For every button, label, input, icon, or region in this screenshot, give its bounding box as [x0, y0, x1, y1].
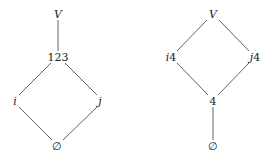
node-V-left: V: [53, 9, 63, 20]
edge-i-empty: [19, 107, 52, 140]
edge-j-empty: [63, 107, 97, 140]
diagram-edges: [0, 0, 276, 157]
edge-123-i: [19, 63, 51, 95]
right-lattice-edges: [177, 20, 249, 140]
edge-i4-4: [177, 63, 208, 95]
edge-123-j: [65, 63, 97, 95]
node-empty-left: ∅: [51, 141, 63, 152]
node-i: i: [12, 96, 18, 107]
node-V-right: V: [208, 9, 218, 20]
node-123: 123: [47, 52, 70, 63]
node-j4-suffix: 4: [253, 51, 260, 64]
node-empty-right: ∅: [207, 141, 219, 152]
node-i4-suffix: 4: [169, 51, 176, 64]
left-lattice-edges: [19, 20, 97, 140]
node-j: j: [97, 96, 102, 107]
node-i4: i4: [165, 52, 178, 63]
edge-V-j4: [219, 20, 249, 51]
edge-V-i4: [177, 20, 207, 51]
edge-j4-4: [218, 63, 249, 95]
node-4: 4: [209, 96, 218, 107]
node-j4: j4: [249, 52, 261, 63]
